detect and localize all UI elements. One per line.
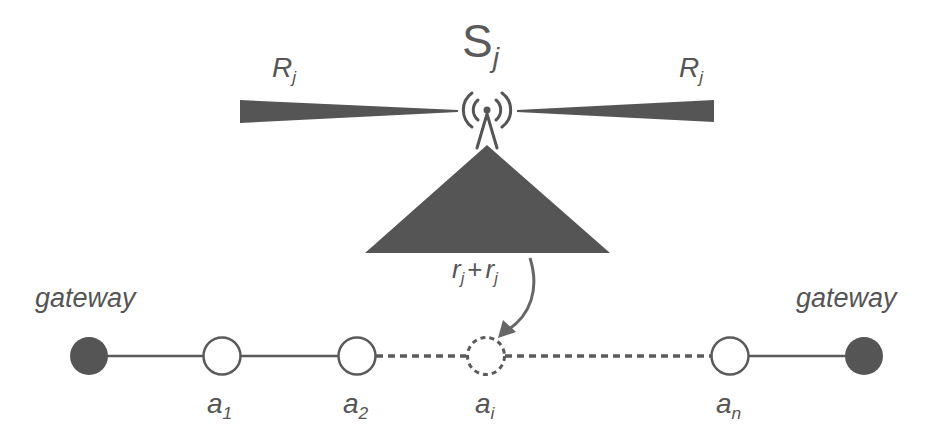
sensor-coverage-diagram: Sj Rj Rj rj+rj gateway gateway a1 a2 ai … (0, 0, 952, 440)
node-an-label: an (716, 388, 741, 424)
node-ai-label: ai (475, 388, 494, 424)
gateway-left-node (70, 337, 108, 375)
node-a2-label: a2 (343, 388, 368, 424)
coverage-triangle (365, 145, 610, 253)
node-ai (468, 338, 505, 375)
gateway-right-label: gateway (796, 283, 897, 314)
node-a1-label: a1 (207, 388, 232, 424)
right-range-beam (517, 100, 714, 122)
gateway-right-node (845, 337, 883, 375)
range-left-label: Rj (272, 52, 296, 88)
curved-arrow (508, 258, 534, 330)
range-right-label: Rj (679, 52, 703, 88)
gateway-left-label: gateway (35, 283, 136, 314)
sensor-label: Sj (462, 14, 499, 74)
coverage-label: rj+rj (452, 254, 498, 288)
node-an (712, 338, 749, 375)
node-a2 (339, 338, 376, 375)
antenna-tower-icon (463, 93, 510, 148)
arrow-head-icon (498, 320, 516, 338)
node-a1 (204, 338, 241, 375)
left-range-beam (240, 100, 458, 123)
